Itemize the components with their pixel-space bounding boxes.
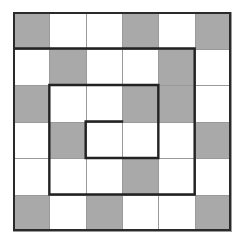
spiral-wall-path xyxy=(13,12,231,231)
spiral-grid-board xyxy=(13,12,231,231)
